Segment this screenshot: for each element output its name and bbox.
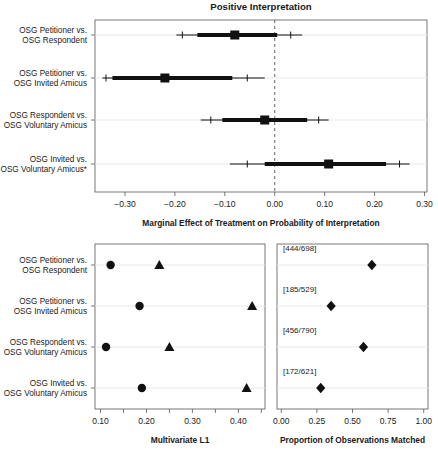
top-xtick-label-3: 0.00 [266,199,283,209]
bl-xtick-label-0: 0.10 [92,416,109,426]
top-point-estimate-row-4 [324,160,333,169]
top-xtick-label-5: 0.20 [366,199,383,209]
bl-xtick-label-1: 0.20 [138,416,155,426]
bl-circle-marker-row-4 [138,384,146,392]
br-annotation-row-1: [444/698] [283,244,316,253]
bottom-right-xlabel: Proportion of Observations Matched [280,435,425,445]
top-point-estimate-row-2 [160,74,169,83]
bl-xtick-label-2: 0.30 [184,416,201,426]
br-xtick-label-1: 0.25 [309,416,326,426]
br-diamond-marker-row-3 [359,342,368,352]
bl-row-label-3-line1: OSG Respondent vs. [10,338,87,347]
top-point-estimate-row-1 [230,31,239,40]
top-row-label-4-line2: OSG Voluntary Amicus* [1,165,88,174]
br-annotation-row-4: [172/621] [283,367,316,376]
br-xtick-label-0: 0.00 [273,416,290,426]
top-xtick-label-6: 0.30 [416,199,433,209]
bottom-left-panel-frame [95,244,265,409]
top-row-label-1-line1: OSG Petitioner vs. [19,26,87,35]
top-xtick-label-4: 0.10 [316,199,333,209]
bl-row-label-1-line2: OSG Respondent [22,266,87,275]
bottom-left-xlabel: Multivariate L1 [151,435,210,445]
bl-circle-marker-row-3 [102,343,110,351]
br-annotation-row-3: [456/790] [283,326,316,335]
top-row-label-3-line1: OSG Respondent vs. [10,111,87,120]
bl-xtick-label-3: 0.40 [230,416,247,426]
top-xtick-label-2: −0.10 [214,199,236,209]
top-panel-title: Positive Interpretation [210,1,311,12]
top-row-label-1-line2: OSG Respondent [22,36,87,45]
top-row-label-2-line2: OSG Invited Amicus [14,79,87,88]
top-xtick-label-1: −0.20 [164,199,186,209]
bl-row-label-4-line2: OSG Voluntary Amicus [4,389,87,398]
br-diamond-marker-row-4 [316,383,325,393]
br-xtick-label-4: 1.00 [415,416,432,426]
top-xtick-label-0: −0.30 [114,199,136,209]
figure-container: Positive InterpretationOSG Petitioner vs… [0,0,438,458]
bl-circle-marker-row-2 [135,302,143,310]
bl-row-label-4-line1: OSG Invited vs. [30,379,87,388]
top-row-label-4-line1: OSG Invited vs. [30,155,87,164]
bl-row-label-2-line2: OSG Invited Amicus [14,307,87,316]
top-panel-frame [95,20,427,192]
statistical-figure: Positive InterpretationOSG Petitioner vs… [0,0,438,458]
top-point-estimate-row-3 [260,116,269,125]
bl-row-label-1-line1: OSG Petitioner vs. [19,256,87,265]
top-row-label-3-line2: OSG Voluntary Amicus [4,121,87,130]
br-xtick-label-3: 0.75 [380,416,397,426]
top-panel-xlabel: Marginal Effect of Treatment on Probabil… [142,218,379,228]
bl-circle-marker-row-1 [106,261,114,269]
br-diamond-marker-row-1 [367,260,376,270]
br-annotation-row-2: [185/529] [283,285,316,294]
bl-row-label-2-line1: OSG Petitioner vs. [19,297,87,306]
br-xtick-label-2: 0.50 [344,416,361,426]
bl-row-label-3-line2: OSG Voluntary Amicus [4,348,87,357]
br-diamond-marker-row-2 [327,301,336,311]
top-row-label-2-line1: OSG Petitioner vs. [19,69,87,78]
